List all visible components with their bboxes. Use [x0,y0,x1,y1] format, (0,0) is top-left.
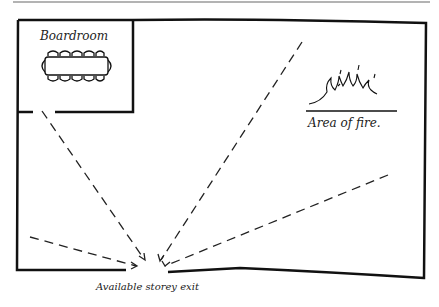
exit-label: Available storey exit [95,281,200,292]
escape-route-left [30,237,136,266]
boardroom-table-icon [42,51,111,81]
arrowheads [131,253,170,269]
escape-route-right [165,175,388,266]
outer-wall [18,19,426,278]
floor-plan-diagram: Boardroom Area of fire. Available storey… [0,0,439,307]
escape-route-top [161,42,302,260]
escape-route-boardroom [42,111,144,259]
boardroom-label: Boardroom [39,29,108,43]
fire-icon [309,65,377,104]
fire-label: Area of fire. [307,116,381,130]
